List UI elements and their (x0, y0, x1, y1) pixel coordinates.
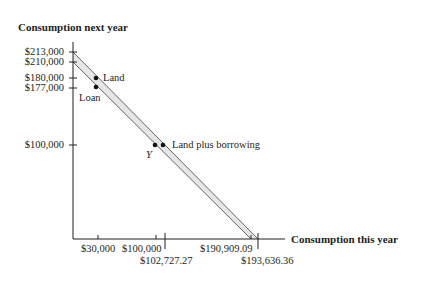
y-tick-210000: $210,000 (25, 57, 64, 68)
x-tick-30000: $30,000 (81, 244, 115, 255)
x-tick-190909: $190,909.09 (200, 244, 253, 255)
loan-label: Loan (79, 93, 101, 104)
land-plus-borrowing-point (161, 143, 166, 148)
lower-budget-line (73, 62, 251, 239)
y-tick-100000: $100,000 (25, 140, 64, 151)
land-label: Land (103, 73, 125, 84)
y-axis-title: Consumption next year (18, 22, 128, 33)
x-tick-102727: $102,727.27 (140, 256, 193, 267)
y-point-label: Y (146, 150, 152, 161)
y-tick-177000: $177,000 (25, 83, 64, 94)
x-tick-100000: $100,000 (122, 244, 161, 255)
x-tick-193636: $193,636.36 (241, 256, 294, 267)
loan-point (94, 85, 99, 90)
land-point (94, 76, 99, 81)
x-axis-title: Consumption this year (291, 234, 398, 245)
land-plus-borrowing-label: Land plus borrowing (172, 140, 260, 151)
y-point (153, 143, 158, 148)
